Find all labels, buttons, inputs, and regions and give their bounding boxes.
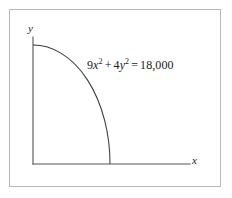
equation-constant: 18,000 <box>140 58 174 72</box>
equation-annotation: 9x2+4y2=18,000 <box>87 59 174 71</box>
equation-plus: + <box>103 58 114 72</box>
x-axis-label: x <box>192 155 197 166</box>
figure-root: y x 9x2+4y2=18,000 <box>0 0 232 198</box>
plot-area <box>0 0 232 198</box>
equation-equals: = <box>129 58 140 72</box>
y-axis-label: y <box>28 23 33 34</box>
